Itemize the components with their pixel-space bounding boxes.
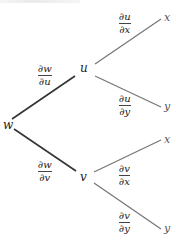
fraction-denominator: ∂y: [119, 106, 130, 117]
fraction-dw-du: ∂w ∂u: [38, 64, 52, 87]
fraction-dv-dx: ∂v ∂x: [119, 164, 130, 187]
fraction-numerator: ∂v: [119, 164, 130, 175]
leaf-v-x: x: [164, 134, 170, 145]
fraction-dw-dv: ∂w ∂v: [38, 160, 52, 183]
leaf-v-y: y: [164, 223, 170, 234]
fraction-numerator: ∂u: [119, 12, 131, 23]
fraction-dv-dy: ∂v ∂y: [119, 211, 130, 234]
fraction-numerator: ∂u: [119, 94, 131, 105]
node-v: v: [80, 171, 87, 183]
fraction-numerator: ∂v: [119, 211, 130, 222]
fraction-du-dy: ∂u ∂y: [119, 94, 131, 117]
fraction-numerator: ∂w: [38, 64, 52, 75]
fraction-denominator: ∂y: [119, 223, 130, 234]
tree-edges: [0, 0, 176, 242]
fraction-denominator: ∂x: [119, 176, 130, 187]
leaf-u-y: y: [164, 101, 170, 112]
fraction-denominator: ∂v: [39, 172, 50, 183]
node-w: w: [3, 119, 13, 131]
fraction-du-dx: ∂u ∂x: [119, 12, 131, 35]
fraction-denominator: ∂u: [39, 76, 51, 87]
node-u: u: [80, 62, 88, 74]
fraction-numerator: ∂w: [38, 160, 52, 171]
leaf-u-x: x: [164, 12, 170, 23]
fraction-denominator: ∂x: [119, 24, 130, 35]
